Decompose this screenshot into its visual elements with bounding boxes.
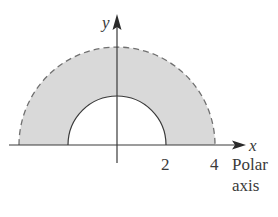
x-axis-label: x: [248, 136, 257, 155]
y-axis-label: y: [100, 13, 110, 32]
tick-label-2: 2: [161, 155, 170, 174]
polar-region-diagram: y x 2 4 Polar axis: [0, 0, 278, 217]
tick-label-4: 4: [210, 155, 219, 174]
polar-axis-label-line1: Polar: [232, 155, 268, 174]
polar-axis-label-line2: axis: [232, 176, 259, 195]
